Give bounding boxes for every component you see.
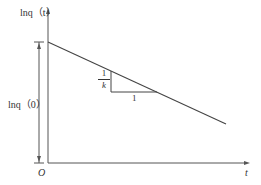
- fraction-numerator: 1: [98, 69, 110, 80]
- intercept-arrow-down-icon: [37, 156, 41, 162]
- intercept-arrow-up-icon: [37, 43, 41, 49]
- chart-canvas: [0, 0, 261, 185]
- x-axis-label: t: [245, 168, 248, 178]
- intercept-label-text: lnq（0）: [8, 99, 46, 110]
- slope-rise-fraction: 1 k: [98, 69, 110, 90]
- series-line: [48, 42, 226, 124]
- x-axis-arrow-icon: [244, 161, 250, 165]
- origin-label: O: [38, 168, 45, 178]
- y-axis-label-text: lnq（t）: [20, 7, 56, 18]
- intercept-label: lnq（0）: [8, 100, 46, 110]
- slope-run-label: 1: [132, 94, 137, 103]
- y-axis-label: lnq（t）: [20, 8, 56, 18]
- fraction-denominator: k: [98, 80, 110, 90]
